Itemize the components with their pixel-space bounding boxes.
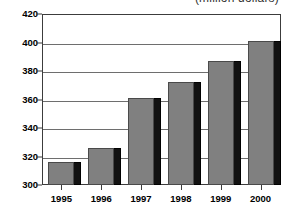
x-axis-tick-mark bbox=[261, 185, 262, 190]
bar-shadow-1998 bbox=[194, 82, 201, 185]
y-axis-tick-label: 320 bbox=[8, 152, 38, 162]
bar-face-1999 bbox=[208, 61, 234, 185]
bar-face-1996 bbox=[88, 148, 114, 185]
bar-1995 bbox=[48, 162, 81, 185]
bar-shadow-2000 bbox=[274, 41, 281, 185]
bar-shadow-1996 bbox=[114, 148, 121, 185]
bar-face-1995 bbox=[48, 162, 74, 185]
y-axis-tick-label: 400 bbox=[8, 38, 38, 48]
bar-1998 bbox=[168, 82, 201, 185]
bar-shadow-1999 bbox=[234, 61, 241, 185]
bar-face-2000 bbox=[248, 41, 274, 185]
x-axis-tick-mark bbox=[221, 185, 222, 190]
y-axis-tick-label: 340 bbox=[8, 123, 38, 133]
bar-1996 bbox=[88, 148, 121, 185]
y-axis-tick-label: 300 bbox=[8, 180, 38, 190]
x-axis-tick-mark bbox=[141, 185, 142, 190]
bar-series bbox=[42, 14, 281, 185]
bar-1997 bbox=[128, 98, 161, 185]
x-axis-tick-label: 2000 bbox=[238, 194, 284, 204]
y-axis-tick-label: 380 bbox=[8, 66, 38, 76]
x-axis-tick-mark bbox=[101, 185, 102, 190]
bar-face-1997 bbox=[128, 98, 154, 185]
bar-face-1998 bbox=[168, 82, 194, 185]
bar-2000 bbox=[248, 41, 281, 185]
x-axis-tick-mark bbox=[181, 185, 182, 190]
bar-shadow-1995 bbox=[74, 162, 81, 185]
y-axis-tick-label: 360 bbox=[8, 95, 38, 105]
y-axis-tick-label: 420 bbox=[8, 9, 38, 19]
x-axis-tick-mark bbox=[61, 185, 62, 190]
chart-title: (million dollars) bbox=[195, 0, 279, 5]
bar-1999 bbox=[208, 61, 241, 185]
bar-shadow-1997 bbox=[154, 98, 161, 185]
